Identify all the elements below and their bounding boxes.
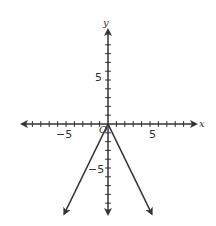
y-tick-label-neg5: −5 [88, 163, 104, 176]
coordinate-plane: y x −5 5 5 −5 O [0, 0, 216, 226]
origin-label: O [99, 124, 107, 135]
x-tick-label-5: 5 [149, 128, 156, 141]
x-tick-label-neg5: −5 [56, 128, 72, 141]
y-axis-label: y [102, 17, 109, 28]
y-tick-label-5: 5 [95, 71, 102, 84]
x-axis-label: x [199, 118, 205, 129]
